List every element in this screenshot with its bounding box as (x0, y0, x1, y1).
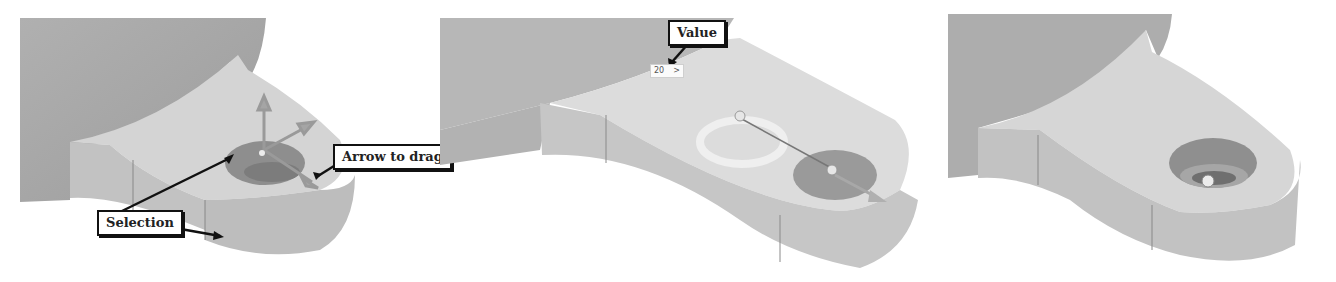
panel-1-selection-view: Selection Arrow to drag (0, 0, 440, 282)
value-input-suffix: > (673, 66, 680, 76)
hole-center-marker-icon (1202, 175, 1214, 187)
arrow-to-drag-callout: Arrow to drag (333, 144, 452, 170)
panel-2-drag-view: Value 20 > (440, 0, 920, 282)
value-callout: Value (668, 20, 726, 46)
value-input-number: 20 (654, 66, 664, 75)
bracket-model-3 (920, 0, 1336, 282)
panel-3-result-view (920, 0, 1336, 282)
selection-callout: Selection (97, 210, 183, 236)
bracket-model-1 (0, 0, 440, 282)
value-input[interactable]: 20 > (650, 64, 684, 78)
